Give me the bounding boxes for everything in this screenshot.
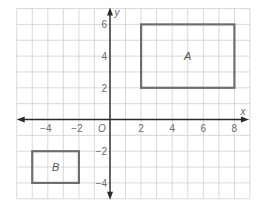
- y-tick-label: −4: [96, 178, 108, 189]
- origin-label: O: [98, 123, 106, 134]
- y-axis-label: y: [114, 7, 121, 18]
- y-tick-label: −2: [96, 146, 108, 157]
- x-tick-label: −4: [40, 123, 52, 134]
- x-tick-label: 6: [201, 123, 207, 134]
- x-axis-right-arrow-icon: [241, 117, 249, 123]
- x-tick-label: −2: [71, 123, 83, 134]
- x-tick-label: 4: [169, 123, 175, 134]
- y-tick-label: 2: [101, 83, 107, 94]
- x-axis-left-arrow-icon: [17, 117, 25, 123]
- x-axis-label: x: [239, 106, 246, 117]
- tick-labels: −4−22468642−2−4Oxy: [40, 7, 246, 189]
- y-tick-label: 6: [101, 19, 107, 30]
- x-tick-label: 2: [138, 123, 144, 134]
- y-tick-label: 4: [101, 51, 107, 62]
- rectangle-label-a: A: [183, 50, 191, 62]
- coordinate-plane: AB −4−22468642−2−4Oxy: [0, 0, 264, 215]
- x-tick-label: 8: [232, 123, 238, 134]
- rectangle-label-b: B: [52, 161, 59, 173]
